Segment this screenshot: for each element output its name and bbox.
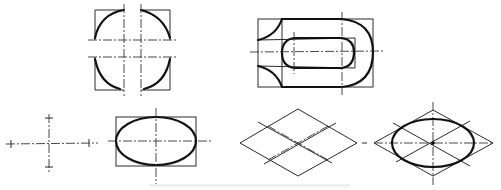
figure-caption [150,180,350,190]
rhombus-grid-panel [240,109,367,176]
axis-horizontal [6,143,98,144]
left-arc-top [258,19,282,40]
center-point [431,141,435,145]
slot-outline [282,38,354,68]
corner-arc-tr [141,10,170,38]
center-diagonal-2 [268,126,328,160]
corner-arc-bl [95,59,120,89]
corner-arc-tl [95,10,124,38]
corner-arc-br [144,59,170,89]
slotted-plate-panel [250,12,383,95]
axes-cross-panel [6,114,98,174]
isometric-ellipse-panel [374,102,493,185]
rounded-corners-panel [88,4,177,96]
ellipse-in-rect-panel [108,108,213,184]
diagram-canvas [0,0,501,190]
quadrant-box-tr [141,10,170,40]
grid-line-1 [258,122,332,163]
slot-centerline-h [250,51,383,52]
left-arc-bottom [258,66,282,87]
d-outline [282,19,373,87]
grid-line-2 [264,123,336,164]
